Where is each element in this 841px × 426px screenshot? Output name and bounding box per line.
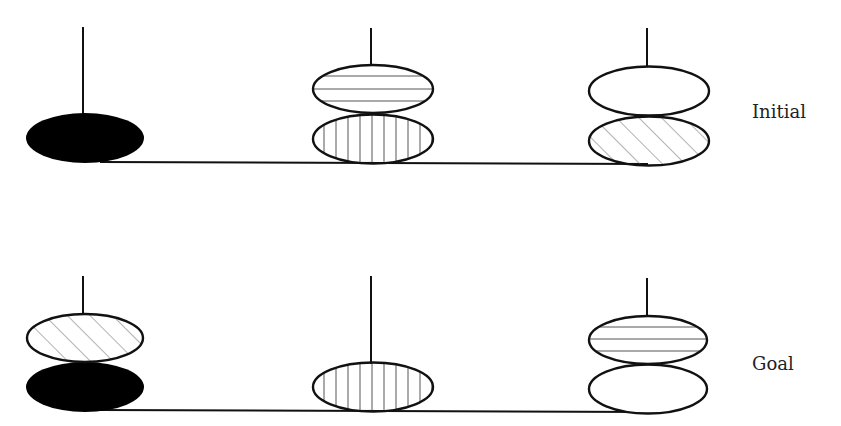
- disk-solid-black: [26, 362, 144, 412]
- disk-plain-white: [589, 365, 707, 414]
- disk-solid-black: [26, 113, 144, 163]
- initial-peg-left: [26, 27, 144, 163]
- goal-peg-right: [580, 278, 720, 414]
- initial-peg-middle: [300, 28, 450, 164]
- disk-vertical-stripes: [313, 363, 433, 412]
- disk-horizontal-stripes-hatch: [580, 310, 720, 370]
- goal-state: [26, 276, 720, 414]
- disk-diagonal-stripes: [27, 314, 143, 362]
- disk-plain-white: [589, 67, 709, 116]
- disk-diagonal-stripes: [589, 117, 709, 166]
- initial-peg-right: [589, 28, 709, 166]
- goal-state-label: Goal: [752, 355, 794, 373]
- goal-peg-middle: [313, 276, 433, 412]
- puzzle-diagram: [0, 0, 841, 426]
- initial-state-label: Initial: [752, 103, 806, 121]
- disk-vertical-stripes: [313, 115, 433, 164]
- disk-horizontal-stripes-hatch: [300, 60, 450, 120]
- goal-peg-left: [26, 276, 144, 412]
- initial-state: [26, 27, 709, 166]
